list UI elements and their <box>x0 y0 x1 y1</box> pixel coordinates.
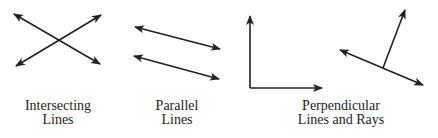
caption-line-2: Lines <box>25 113 91 127</box>
caption-line-2: Lines and Rays <box>298 113 384 127</box>
perpendicular-ray-4 <box>383 10 405 68</box>
parallel-lines-drawing <box>134 27 220 79</box>
intersecting-lines-drawing <box>14 14 101 66</box>
caption-intersecting-lines: Intersecting Lines <box>25 99 91 127</box>
caption-line-2: Lines <box>156 113 199 127</box>
perpendicular-lines-and-rays-drawing <box>250 10 423 88</box>
geometry-lines-figure: Intersecting Lines Parallel Lines Perpen… <box>0 0 438 138</box>
caption-perpendicular-lines-and-rays: Perpendicular Lines and Rays <box>298 99 384 127</box>
caption-line-1: Parallel <box>156 99 199 113</box>
perpendicular-line-3 <box>340 50 423 85</box>
parallel-line-1 <box>135 27 220 49</box>
caption-line-1: Perpendicular <box>298 99 384 113</box>
caption-line-1: Intersecting <box>25 99 91 113</box>
intersecting-line-1 <box>14 14 100 64</box>
caption-parallel-lines: Parallel Lines <box>156 99 199 127</box>
parallel-line-2 <box>134 56 219 79</box>
